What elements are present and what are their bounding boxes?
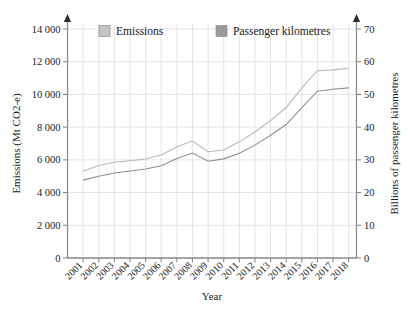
- left-axis-tick-label: 2 000: [37, 220, 61, 231]
- x-axis-title: Year: [202, 290, 223, 302]
- right-axis-tick-label: 50: [364, 89, 375, 100]
- left-axis-tick-label: 10 000: [32, 89, 61, 100]
- left-axis-tick-label: 4 000: [37, 187, 61, 198]
- right-axis-title: Billions of passenger kilometres: [388, 72, 400, 214]
- right-axis-tick-label: 30: [364, 154, 375, 165]
- right-axis-tick-label: 40: [364, 122, 375, 133]
- legend-label: Passenger kilometres: [233, 25, 331, 38]
- left-axis-tick-label: 6 000: [37, 154, 61, 165]
- legend-swatch: [99, 26, 110, 37]
- right-axis-tick-label: 20: [364, 187, 375, 198]
- left-axis-tick-label: 0: [55, 253, 60, 264]
- chart-container: 02 0004 0006 0008 00010 00012 00014 0000…: [0, 0, 414, 315]
- left-axis-title: Emissions (Mt CO2-e): [10, 93, 23, 194]
- right-axis-tick-label: 0: [364, 253, 369, 264]
- left-axis-tick-label: 14 000: [32, 24, 61, 35]
- left-axis-tick-label: 8 000: [37, 122, 61, 133]
- left-axis-tick-label: 12 000: [32, 56, 61, 67]
- right-axis-tick-label: 10: [364, 220, 375, 231]
- right-axis-tick-label: 60: [364, 56, 375, 67]
- dual-axis-line-chart: 02 0004 0006 0008 00010 00012 00014 0000…: [0, 0, 414, 315]
- legend-label: Emissions: [116, 25, 164, 37]
- legend-swatch: [216, 26, 227, 37]
- right-axis-tick-label: 70: [364, 24, 375, 35]
